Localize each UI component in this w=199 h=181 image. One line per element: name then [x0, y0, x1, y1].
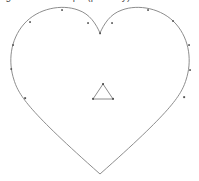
vertex-marker	[111, 22, 113, 24]
figure-canvas: figure heart shape (partially) cut	[0, 0, 199, 181]
vertex-marker	[183, 96, 185, 98]
heart-vertex-markers	[10, 9, 191, 99]
triangle-vertex-markers	[92, 83, 114, 100]
vertex-marker	[147, 9, 149, 11]
vertex-marker	[188, 44, 190, 46]
vertex-marker	[10, 68, 12, 70]
heart-diagram	[0, 0, 199, 181]
vertex-marker	[102, 83, 104, 85]
vertex-marker	[29, 21, 31, 23]
vertex-marker	[92, 98, 94, 100]
vertex-marker-cleft	[99, 32, 101, 34]
heart-outline-path	[11, 7, 189, 174]
vertex-marker	[189, 69, 191, 71]
vertex-marker	[172, 20, 174, 22]
vertex-marker	[87, 22, 89, 24]
vertex-marker	[12, 44, 14, 46]
inner-triangle-path	[93, 84, 113, 99]
vertex-marker	[61, 9, 63, 11]
vertex-marker	[112, 98, 114, 100]
vertex-marker	[24, 97, 26, 99]
